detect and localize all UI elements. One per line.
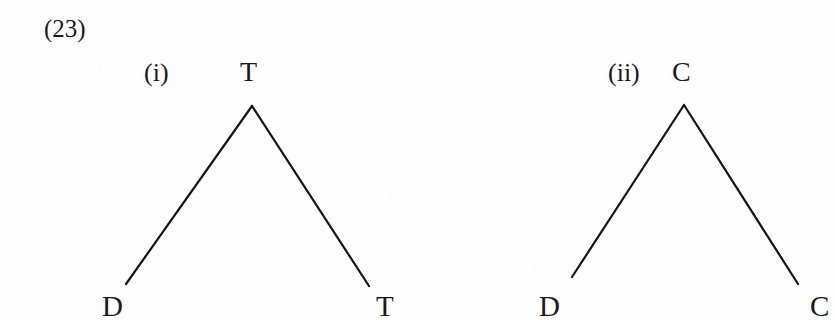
figure-page: (23) (i) T D T (ii) C D C bbox=[0, 0, 835, 320]
tree-2-item-number: (ii) bbox=[608, 60, 640, 86]
tree-1-right-leaf-label: T bbox=[376, 292, 394, 320]
tree-2-right-leaf-label: C bbox=[810, 292, 829, 320]
paper-grain bbox=[0, 0, 835, 320]
tree2-left-branch bbox=[572, 105, 684, 277]
tree-2-left-leaf-label: D bbox=[539, 292, 560, 320]
tree-branch-lines bbox=[0, 0, 835, 320]
example-number: (23) bbox=[44, 16, 86, 41]
tree-1-left-leaf-label: D bbox=[102, 292, 123, 320]
tree-2-root-node-label: C bbox=[672, 58, 691, 86]
tree1-right-branch bbox=[252, 106, 369, 286]
tree1-left-branch bbox=[126, 106, 252, 284]
tree-1-root-node-label: T bbox=[240, 58, 257, 86]
tree2-right-branch bbox=[684, 105, 798, 284]
tree-1-item-number: (i) bbox=[144, 60, 169, 86]
